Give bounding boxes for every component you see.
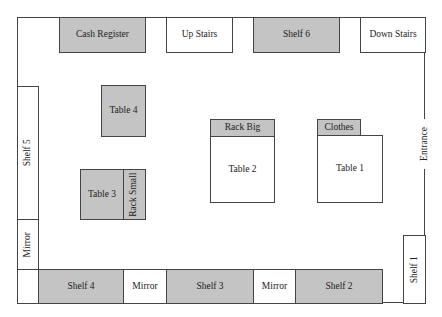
- up-stairs-label: Up Stairs: [182, 30, 218, 40]
- down-stairs: Down Stairs: [360, 17, 426, 53]
- mirror-bottom-1-label: Mirror: [132, 282, 157, 292]
- clothes-rack: Clothes: [317, 119, 361, 136]
- shelf-5: Shelf 5: [17, 86, 39, 220]
- bottom-corner-block: [17, 269, 39, 304]
- table-2: Table 2: [210, 136, 275, 203]
- entrance[interactable]: Entrance: [412, 118, 436, 169]
- shelf-6: Shelf 6: [253, 17, 340, 53]
- shelf-2: Shelf 2: [295, 269, 383, 304]
- rack-big: Rack Big: [210, 119, 275, 137]
- table-4-label: Table 4: [109, 106, 137, 116]
- entrance-label: Entrance: [419, 127, 429, 161]
- table-4: Table 4: [101, 85, 146, 137]
- shelf-1: Shelf 1: [403, 235, 426, 304]
- mirror-left-label: Mirror: [23, 232, 33, 257]
- table-1-label: Table 1: [336, 164, 364, 174]
- cash-register: Cash Register: [59, 17, 146, 53]
- table-3: Table 3: [80, 169, 124, 220]
- up-stairs: Up Stairs: [166, 17, 233, 53]
- down-stairs-label: Down Stairs: [369, 30, 416, 40]
- shelf-4: Shelf 4: [38, 269, 124, 304]
- rack-small-label: Rack Small: [130, 172, 140, 216]
- mirror-bottom-2-label: Mirror: [262, 282, 287, 292]
- mirror-left: Mirror: [17, 219, 39, 270]
- shelf-2-label: Shelf 2: [325, 282, 352, 292]
- mirror-bottom-2: Mirror: [253, 269, 296, 304]
- table-2-label: Table 2: [228, 165, 256, 175]
- shelf-6-label: Shelf 6: [283, 30, 310, 40]
- rack-big-label: Rack Big: [225, 123, 261, 133]
- shelf-3-label: Shelf 3: [196, 282, 223, 292]
- shelf-3: Shelf 3: [166, 269, 254, 304]
- clothes-label: Clothes: [324, 123, 353, 133]
- cash-register-label: Cash Register: [76, 30, 129, 40]
- table-3-label: Table 3: [88, 190, 116, 200]
- shelf-1-label: Shelf 1: [410, 256, 420, 283]
- mirror-bottom-1: Mirror: [123, 269, 167, 304]
- rack-small: Rack Small: [123, 169, 146, 220]
- table-1: Table 1: [317, 135, 383, 203]
- shelf-5-label: Shelf 5: [23, 139, 33, 166]
- shelf-4-label: Shelf 4: [67, 282, 94, 292]
